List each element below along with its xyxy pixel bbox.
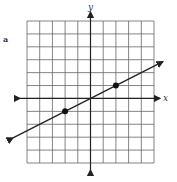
axes xyxy=(20,12,160,170)
side-marker: a xyxy=(3,34,8,44)
data-point xyxy=(62,108,68,114)
y-axis-label: y xyxy=(88,2,93,12)
x-axis-label: x xyxy=(163,93,168,103)
plotted-line xyxy=(13,62,163,138)
data-point xyxy=(113,83,119,89)
graph-svg xyxy=(0,0,177,182)
